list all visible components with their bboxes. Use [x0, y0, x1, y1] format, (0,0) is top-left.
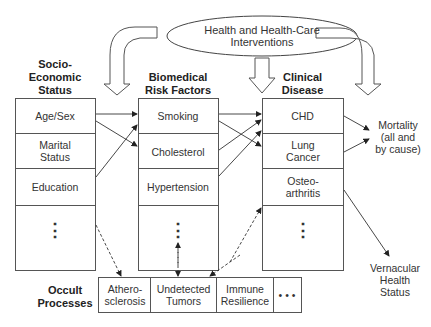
interventions-label: Health and Health-CareInterventions	[172, 24, 352, 48]
heading-clinical: ClinicalDisease	[262, 71, 343, 97]
heading-socioeconomic: Socio-EconomicStatus	[10, 58, 100, 97]
heading-occult: OccultProcesses	[35, 284, 95, 310]
item-age-sex: Age/Sex	[15, 110, 95, 122]
item-lung-cancer: Lung Cancer	[277, 139, 329, 163]
heading-biomedical: BiomedicalRisk Factors	[128, 71, 228, 97]
item-marital-status: Marital Status	[25, 139, 85, 163]
item-more: ⋮	[262, 224, 343, 236]
outcome-mortality: Mortality(all andby cause)	[365, 119, 431, 155]
occult-more: • • •	[273, 289, 301, 301]
occult-undetected-tumors: Undetected Tumors	[152, 283, 215, 307]
item-more: ⋮	[15, 224, 95, 236]
occult-immune-resilience: Immune Resilience	[218, 283, 272, 307]
item-smoking: Smoking	[138, 110, 218, 122]
item-osteoarthritis: Osteo-arthritis	[281, 175, 325, 199]
occult-atherosclerosis: Athero-sclerosis	[104, 283, 146, 307]
item-more: ⋮	[138, 224, 218, 236]
outcome-vernacular: VernacularHealthStatus	[360, 262, 430, 298]
item-chd: CHD	[262, 110, 343, 122]
item-education: Education	[15, 181, 95, 193]
item-cholesterol: Cholesterol	[138, 146, 218, 158]
item-hypertension: Hypertension	[138, 181, 218, 193]
